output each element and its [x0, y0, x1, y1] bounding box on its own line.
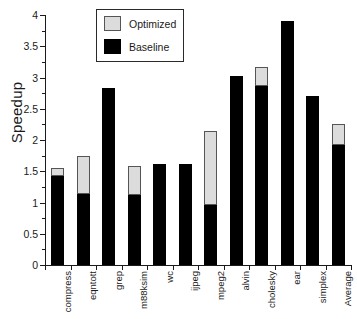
y-tick-mark: [40, 140, 45, 141]
x-tick-label: ijpeg: [189, 271, 200, 291]
bar-stack: [102, 88, 115, 266]
bar-stack: [306, 96, 319, 265]
bar-slot: [230, 15, 243, 265]
legend-swatch-baseline-icon: [104, 39, 121, 54]
bar-stack: [179, 164, 192, 265]
x-tick-label: cholesky: [266, 271, 277, 308]
bar-segment-baseline: [128, 195, 141, 265]
y-tick-mark: [40, 78, 45, 79]
y-tick-label: 0: [32, 259, 38, 271]
y-axis-title: Speedup: [8, 53, 25, 173]
x-tick-mark: [71, 265, 72, 270]
x-tick-mark: [300, 265, 301, 270]
y-tick-mark: [40, 203, 45, 204]
x-tick-mark: [224, 265, 225, 270]
legend-item-baseline: Baseline: [104, 39, 169, 54]
y-tick-mark-minor: [42, 124, 45, 125]
bar-segment-baseline: [230, 76, 243, 265]
speedup-bar-chart: Speedup 00.511.522.533.54 compresseqntot…: [0, 0, 357, 319]
bar-segment-baseline: [77, 194, 90, 265]
bar-stack: [77, 156, 90, 265]
y-tick-mark-minor: [42, 31, 45, 32]
legend-label-baseline: Baseline: [129, 41, 169, 53]
x-tick-label: mpeg2: [215, 271, 226, 300]
bar-stack: [281, 21, 294, 265]
y-tick-mark-minor: [42, 218, 45, 219]
x-tick-label: wc: [164, 271, 175, 283]
x-tick-label: m88ksim: [138, 271, 149, 309]
bar-segment-baseline: [204, 205, 217, 265]
x-tick-label: simplex: [317, 271, 328, 303]
y-tick-mark-minor: [42, 156, 45, 157]
bar-segment-optimized: [77, 156, 90, 195]
y-tick-label: 2.5: [23, 103, 38, 115]
bar-slot: [204, 15, 217, 265]
bar-segment-baseline: [51, 176, 64, 265]
bar-segment-optimized: [332, 124, 345, 145]
bar-slot: [306, 15, 319, 265]
y-tick-mark-minor: [42, 249, 45, 250]
legend-label-optimized: Optimized: [129, 18, 176, 30]
x-tick-label: Average: [342, 271, 353, 306]
plot-area: 00.511.522.533.54 compresseqntottgrepm88…: [45, 15, 351, 265]
y-tick-mark: [40, 171, 45, 172]
bar-stack: [153, 164, 166, 265]
x-tick-mark: [275, 265, 276, 270]
x-tick-mark: [96, 265, 97, 270]
y-tick-mark: [40, 46, 45, 47]
bar-stack: [204, 131, 217, 265]
y-tick-mark-minor: [42, 62, 45, 63]
bar-segment-optimized: [255, 67, 268, 86]
x-tick-mark: [198, 265, 199, 270]
bar-segment-baseline: [306, 96, 319, 265]
y-tick-label: 1.5: [23, 165, 38, 177]
y-tick-label: 3.5: [23, 40, 38, 52]
x-tick-mark: [122, 265, 123, 270]
legend-swatch-optimized-icon: [104, 16, 121, 31]
x-tick-mark: [147, 265, 148, 270]
bar-slot: [255, 15, 268, 265]
y-tick-mark: [40, 234, 45, 235]
x-tick-mark: [249, 265, 250, 270]
x-tick-label: grep: [113, 271, 124, 290]
bar-slot: [51, 15, 64, 265]
y-tick-label: 3: [32, 72, 38, 84]
y-tick-label: 1: [32, 197, 38, 209]
x-tick-label: ear: [291, 271, 302, 285]
bar-slot: [332, 15, 345, 265]
y-tick-label: 0.5: [23, 228, 38, 240]
x-tick-mark: [326, 265, 327, 270]
bar-stack: [255, 67, 268, 265]
bar-segment-optimized: [128, 166, 141, 195]
y-tick-mark: [40, 15, 45, 16]
y-tick-mark: [40, 109, 45, 110]
chart-legend: Optimized Baseline: [96, 9, 184, 62]
x-tick-label: eqntott: [87, 271, 98, 300]
y-tick-label: 4: [32, 9, 38, 21]
bar-stack: [230, 76, 243, 265]
bar-segment-baseline: [179, 164, 192, 265]
bar-segment-optimized: [204, 131, 217, 205]
y-tick-mark-minor: [42, 187, 45, 188]
x-tick-mark: [173, 265, 174, 270]
x-tick-mark: [351, 265, 352, 270]
y-tick-label: 2: [32, 134, 38, 146]
bar-stack: [332, 124, 345, 265]
bar-stack: [128, 166, 141, 265]
bar-segment-baseline: [255, 86, 268, 265]
x-tick-label: alvin: [240, 271, 251, 291]
bar-segment-baseline: [153, 164, 166, 265]
legend-item-optimized: Optimized: [104, 16, 176, 31]
x-tick-mark: [45, 265, 46, 270]
bar-slot: [281, 15, 294, 265]
y-axis-line: [45, 15, 46, 266]
bar-slot: [77, 15, 90, 265]
bar-segment-baseline: [332, 145, 345, 265]
y-tick-mark-minor: [42, 93, 45, 94]
bar-stack: [51, 168, 64, 266]
x-tick-label: compress: [62, 271, 73, 312]
bar-segment-optimized: [51, 168, 64, 177]
bar-segment-baseline: [102, 88, 115, 266]
bar-segment-baseline: [281, 21, 294, 265]
